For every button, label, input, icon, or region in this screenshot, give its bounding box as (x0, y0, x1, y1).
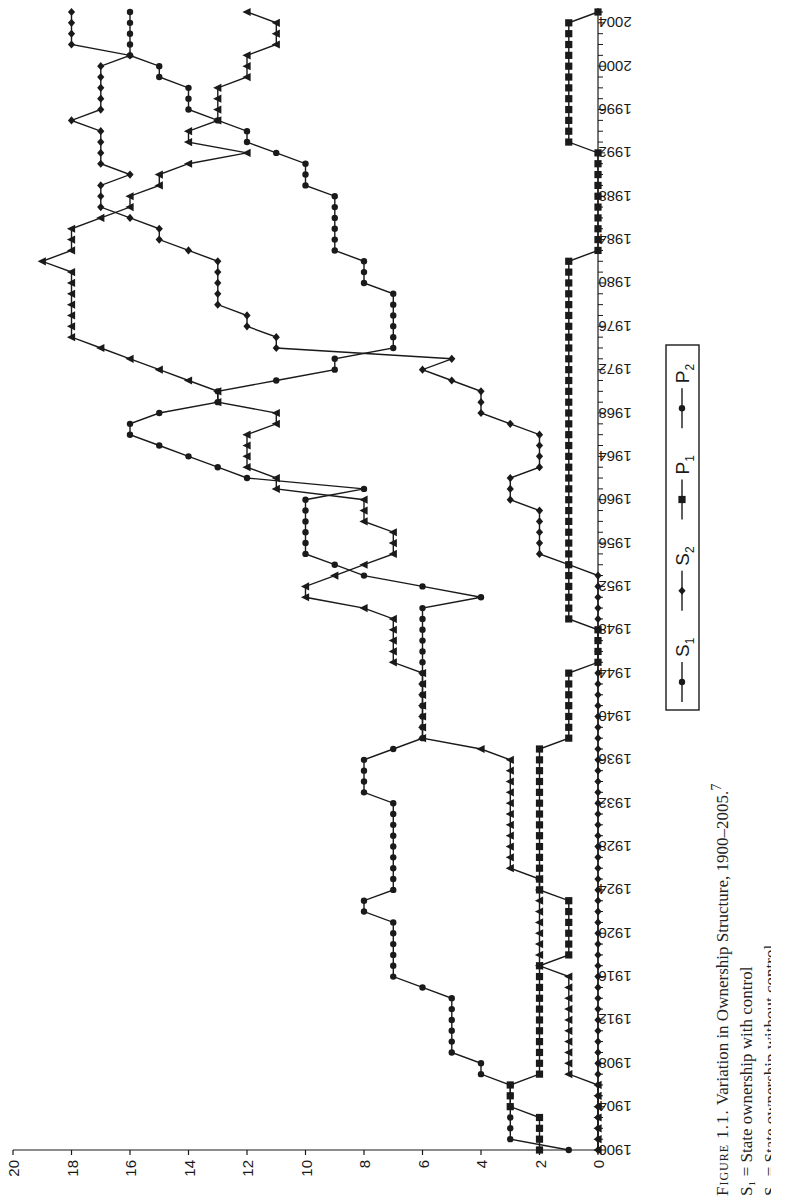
year-tick-label: 1996 (598, 101, 631, 118)
diamond-marker (214, 290, 221, 298)
series-s2 (68, 8, 602, 1154)
circle-marker (127, 41, 133, 47)
circle-marker (127, 20, 133, 26)
square-marker (536, 1027, 543, 1034)
circle-marker (449, 1006, 455, 1012)
circle-marker (361, 789, 367, 795)
diamond-marker (243, 311, 250, 319)
square-marker (594, 247, 601, 254)
diamond-marker (273, 344, 280, 352)
diamond-marker (97, 192, 104, 200)
triangle-marker (330, 571, 338, 579)
series-p2 (127, 9, 572, 1153)
circle-marker (332, 356, 338, 362)
circle-marker (332, 562, 338, 568)
circle-marker (127, 52, 133, 58)
circle-marker (679, 679, 685, 685)
square-marker (565, 680, 572, 687)
diamond-marker (214, 301, 221, 309)
diamond-marker (536, 506, 543, 514)
square-marker (594, 182, 601, 189)
square-marker (565, 19, 572, 26)
year-tick-label: 1924 (598, 881, 631, 898)
circle-marker (449, 1049, 455, 1055)
diamond-marker (156, 225, 163, 233)
circle-marker (390, 334, 396, 340)
circle-marker (390, 746, 396, 752)
diamond-marker (97, 181, 104, 189)
circle-marker (302, 182, 308, 188)
legend-label-subscript: 1 (683, 455, 697, 462)
value-tick-label: 8 (356, 1160, 373, 1168)
diamond-marker (68, 30, 75, 38)
circle-marker (390, 811, 396, 817)
square-marker (565, 399, 572, 406)
square-marker (536, 1038, 543, 1045)
circle-marker (361, 757, 367, 763)
circle-marker (302, 529, 308, 535)
square-marker (565, 561, 572, 568)
square-marker (678, 496, 685, 503)
circle-marker (185, 85, 191, 91)
square-marker (565, 670, 572, 677)
year-tick-label: 1964 (598, 448, 631, 465)
square-marker (565, 529, 572, 536)
diamond-marker (477, 409, 484, 417)
circle-marker (390, 854, 396, 860)
circle-marker (361, 269, 367, 275)
triangle-marker (125, 355, 133, 363)
square-marker (536, 832, 543, 839)
circle-marker (449, 995, 455, 1001)
square-marker (565, 691, 572, 698)
square-marker (565, 431, 572, 438)
circle-marker (507, 1136, 513, 1142)
square-marker (594, 171, 601, 178)
diamond-marker (594, 864, 601, 872)
circle-marker (185, 96, 191, 102)
circle-marker (390, 345, 396, 351)
circle-marker (390, 973, 396, 979)
circle-marker (390, 876, 396, 882)
year-tick-label: 1916 (598, 968, 631, 985)
circle-marker (215, 388, 221, 394)
circle-marker (332, 226, 338, 232)
diamond-marker (536, 431, 543, 439)
diamond-marker (536, 539, 543, 547)
diamond-marker (97, 160, 104, 168)
circle-marker (185, 106, 191, 112)
circle-marker (361, 258, 367, 264)
diamond-marker (243, 322, 250, 330)
circle-marker (390, 963, 396, 969)
circle-marker (390, 919, 396, 925)
square-marker (536, 962, 543, 969)
circle-marker (127, 431, 133, 437)
diamond-marker (97, 73, 104, 81)
triangle-marker (242, 8, 250, 16)
circle-marker (507, 1093, 513, 1099)
square-marker (565, 84, 572, 91)
circle-marker (127, 9, 133, 15)
diamond-marker (214, 268, 221, 276)
square-marker (565, 724, 572, 731)
square-marker (565, 615, 572, 622)
circle-marker (419, 637, 425, 643)
diamond-marker (594, 777, 601, 785)
square-marker (565, 269, 572, 276)
square-marker (565, 735, 572, 742)
diamond-marker (126, 214, 133, 222)
circle-marker (390, 865, 396, 871)
year-tick-label: 1912 (598, 1011, 631, 1028)
diamond-marker (68, 40, 75, 48)
circle-marker (302, 540, 308, 546)
circle-marker (478, 1071, 484, 1077)
square-marker (536, 1114, 543, 1121)
diamond-marker (594, 1038, 601, 1046)
diamond-marker (536, 517, 543, 525)
year-tick-label: 1952 (598, 578, 631, 595)
circle-marker (449, 1028, 455, 1034)
square-marker (565, 377, 572, 384)
circle-marker (390, 941, 396, 947)
year-tick-label: 1904 (598, 1098, 631, 1115)
square-marker (594, 225, 601, 232)
diamond-marker (477, 387, 484, 395)
